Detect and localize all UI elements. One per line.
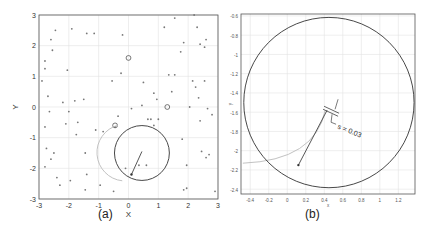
data-point: [199, 120, 201, 122]
x-tick-label: 3: [216, 202, 220, 209]
gap-arrow: [335, 99, 338, 109]
x-tick-label: 1: [379, 198, 382, 203]
data-point: [171, 91, 173, 93]
x-tick-label: 0.2: [303, 198, 310, 203]
annotation-leader: [331, 114, 336, 124]
data-point: [211, 114, 213, 116]
data-point: [52, 49, 54, 51]
y-tick-label: -1: [30, 134, 36, 141]
data-point: [199, 43, 201, 45]
data-point: [207, 108, 209, 110]
data-point: [68, 111, 70, 113]
plot-frame: [241, 14, 415, 194]
y-tick-label: -1.8: [230, 130, 238, 135]
data-point: [186, 187, 188, 189]
data-point: [183, 189, 185, 191]
x-tick-label: 1: [156, 202, 160, 209]
data-point: [196, 26, 198, 28]
data-point: [83, 98, 85, 100]
data-point: [201, 151, 203, 153]
data-point: [208, 154, 210, 156]
y-tick-label: 1: [32, 73, 36, 80]
chart-b: -0.4-0.200.20.40.60.811.2-0.6-0.8-1-1.2-…: [228, 14, 415, 208]
y-tick-label: 0: [32, 104, 36, 111]
data-point: [102, 131, 104, 133]
data-point: [77, 121, 79, 123]
data-point: [143, 82, 145, 84]
segment-end-marker: [130, 173, 132, 175]
x-axis-label: x: [327, 203, 330, 208]
data-point: [131, 108, 133, 110]
data-point: [75, 134, 77, 136]
data-point: [141, 105, 143, 107]
data-point: [86, 33, 88, 35]
y-axis-label: y: [228, 102, 233, 105]
data-point: [122, 34, 124, 36]
data-point: [174, 74, 176, 76]
data-point: [153, 92, 155, 94]
data-point: [168, 74, 170, 76]
data-point: [111, 80, 113, 82]
y-tick-label: -0.8: [230, 34, 238, 39]
data-point: [125, 167, 127, 169]
boundary-circle: [244, 17, 414, 187]
data-point: [174, 17, 176, 19]
x-axis-label: X: [126, 210, 132, 219]
data-point: [50, 158, 52, 160]
direction-segment: [298, 110, 327, 165]
data-point: [205, 157, 207, 159]
data-point: [204, 46, 206, 48]
trajectory-arc: [97, 125, 122, 181]
y-tick-label: -1: [234, 53, 238, 58]
data-point: [41, 80, 43, 82]
data-point: [84, 189, 86, 191]
data-point: [205, 39, 207, 41]
data-point: [66, 69, 68, 71]
data-point: [195, 86, 197, 88]
data-point: [180, 51, 182, 53]
y-tick-label: 3: [32, 12, 36, 19]
data-point: [93, 33, 95, 35]
data-point: [163, 26, 165, 28]
x-tick-label: 0: [127, 202, 131, 209]
data-point: [46, 148, 48, 150]
figure: -3-2-101233210-1-2-3XY-0.4-0.200.20.40.6…: [0, 0, 432, 237]
data-point: [86, 174, 88, 176]
data-point: [113, 190, 115, 192]
x-tick-label: 1.2: [395, 198, 402, 203]
segment-end-marker: [297, 164, 299, 166]
x-tick-label: -0.2: [265, 198, 273, 203]
data-point: [44, 126, 46, 128]
data-point: [193, 14, 195, 16]
data-point: [49, 111, 51, 113]
data-point: [44, 166, 46, 168]
y-tick-label: -2.2: [230, 168, 238, 173]
chart-a: -3-2-101233210-1-2-3XY: [11, 12, 220, 220]
data-point: [214, 190, 216, 192]
y-tick-label: -2: [30, 165, 36, 172]
x-tick-label: 0.6: [340, 198, 347, 203]
data-point: [53, 152, 55, 154]
y-tick-label: 2: [32, 42, 36, 49]
x-tick-label: -0.4: [246, 198, 254, 203]
data-point: [120, 72, 122, 74]
data-point: [138, 164, 140, 166]
x-tick-label: 2: [186, 202, 190, 209]
data-point: [156, 98, 158, 100]
y-axis-label: Y: [11, 104, 20, 110]
data-point: [192, 80, 194, 82]
y-tick-label: -3: [30, 196, 36, 203]
data-point: [56, 177, 58, 179]
data-point: [69, 180, 71, 182]
data-point: [50, 39, 52, 41]
data-point: [55, 29, 57, 31]
data-point: [71, 28, 73, 30]
data-point: [99, 184, 101, 186]
y-tick-label: -2.4: [230, 188, 238, 193]
caption-b: (b): [305, 207, 320, 221]
x-tick-label: 0.8: [358, 198, 365, 203]
data-point: [65, 123, 67, 125]
data-point: [44, 60, 46, 62]
data-point: [204, 80, 206, 82]
data-point: [181, 138, 183, 140]
